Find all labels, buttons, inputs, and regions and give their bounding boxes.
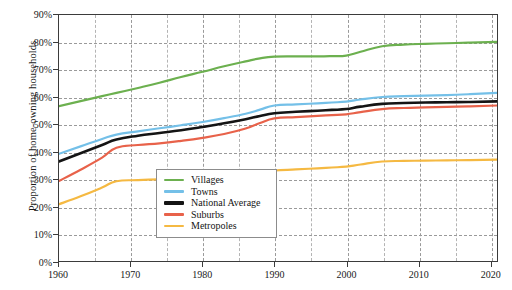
y-tick-mark (53, 97, 58, 98)
y-tick-mark (53, 179, 58, 180)
legend-item-villages[interactable]: Villages (164, 174, 269, 186)
x-tick-label: 1980 (192, 269, 212, 280)
series-lines (59, 15, 497, 262)
legend-swatch-icon (164, 190, 184, 193)
legend-item-metropoles[interactable]: Metropoles (164, 220, 269, 232)
legend-item-towns[interactable]: Towns (164, 186, 269, 198)
legend-item-label: Villages (191, 174, 224, 186)
y-tick-mark (53, 207, 58, 208)
x-tick-label: 1970 (120, 269, 140, 280)
y-tick-mark (53, 152, 58, 153)
x-tick-mark (130, 262, 131, 267)
y-tick-mark (53, 14, 58, 15)
legend-item-label: Towns (191, 186, 218, 198)
x-tick-mark (347, 262, 348, 267)
home-ownership-line-chart: Proportion of home-owning households 0%1… (0, 0, 512, 290)
x-tick-mark (58, 262, 59, 267)
legend-swatch-icon (164, 201, 184, 205)
x-tick-label: 1990 (264, 269, 284, 280)
legend-item-national-average[interactable]: National Average (164, 197, 269, 209)
chart-legend: VillagesTownsNational AverageSuburbsMetr… (156, 169, 277, 238)
legend-item-label: National Average (191, 197, 261, 209)
x-tick-mark (274, 262, 275, 267)
x-tick-mark (202, 262, 203, 267)
x-tick-label: 1960 (48, 269, 68, 280)
y-tick-mark (53, 234, 58, 235)
legend-swatch-icon (164, 213, 184, 216)
series-line-national-average (59, 101, 497, 161)
y-tick-mark (53, 42, 58, 43)
legend-item-suburbs[interactable]: Suburbs (164, 209, 269, 221)
x-tick-label: 2020 (481, 269, 501, 280)
x-tick-label: 2010 (409, 269, 429, 280)
x-tick-label: 2000 (337, 269, 357, 280)
y-tick-mark (53, 124, 58, 125)
x-tick-mark (419, 262, 420, 267)
y-tick-mark (53, 69, 58, 70)
series-line-metropoles (59, 160, 497, 205)
legend-swatch-icon (164, 225, 184, 228)
plot-area (58, 14, 498, 262)
x-tick-mark (491, 262, 492, 267)
legend-swatch-icon (164, 179, 184, 182)
legend-item-label: Metropoles (191, 220, 237, 232)
legend-item-label: Suburbs (191, 209, 224, 221)
